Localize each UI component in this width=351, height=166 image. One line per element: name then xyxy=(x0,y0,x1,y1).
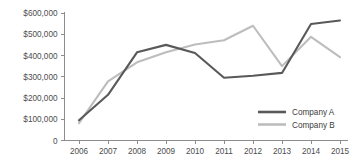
y-tick-label: $400,000 xyxy=(23,52,58,61)
chart-legend: Company ACompany B xyxy=(258,108,335,130)
x-tick-label: 2006 xyxy=(70,147,89,156)
series-line-company-a xyxy=(79,20,340,120)
x-tick-label: 2011 xyxy=(215,147,233,156)
y-tick-label: $300,000 xyxy=(23,73,58,82)
y-tick-label: $100,000 xyxy=(23,115,58,124)
y-axis: 0$100,000$200,000$300,000$400,000$500,00… xyxy=(23,9,64,146)
x-tick-label: 2008 xyxy=(128,147,147,156)
y-tick-label: $600,000 xyxy=(23,9,58,18)
legend-label-company-a: Company A xyxy=(292,108,335,117)
y-tick-label: 0 xyxy=(53,137,58,146)
x-tick-label: 2010 xyxy=(186,147,205,156)
legend-label-company-b: Company B xyxy=(292,121,335,130)
x-tick-label: 2014 xyxy=(302,147,321,156)
x-tick-label: 2015 xyxy=(331,147,350,156)
x-tick-label: 2013 xyxy=(273,147,292,156)
line-chart: 0$100,000$200,000$300,000$400,000$500,00… xyxy=(0,0,351,166)
x-tick-label: 2009 xyxy=(157,147,176,156)
y-tick-label: $200,000 xyxy=(23,94,58,103)
x-axis: 2006200720082009201020112012201320142015 xyxy=(65,141,350,157)
y-tick-label: $500,000 xyxy=(23,30,58,39)
chart-container: 0$100,000$200,000$300,000$400,000$500,00… xyxy=(0,0,351,166)
x-tick-label: 2012 xyxy=(244,147,263,156)
x-tick-label: 2007 xyxy=(99,147,118,156)
